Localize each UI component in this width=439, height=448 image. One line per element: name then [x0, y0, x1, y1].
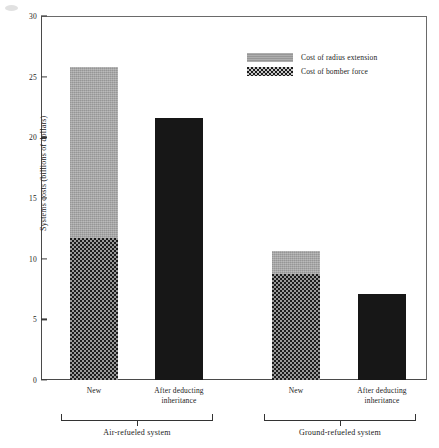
- group-bracket-tick: [137, 421, 138, 426]
- legend-item-bomber-force: Cost of bomber force: [247, 66, 377, 76]
- group-bracket: [264, 414, 416, 421]
- y-tick-label: 10: [7, 254, 37, 263]
- group-label: Ground-refueled system: [260, 428, 420, 437]
- y-tick-mark: [41, 379, 47, 380]
- bar: [272, 251, 320, 380]
- x-axis-label: After deductinginheritance: [134, 386, 224, 405]
- y-tick-mark: [41, 319, 47, 320]
- bar: [70, 67, 118, 380]
- bar-segment-radius-extension: [70, 67, 118, 238]
- bar-segment-bomber-force: [70, 238, 118, 380]
- x-axis-label-line: inheritance: [337, 396, 427, 406]
- bar-segment-bomber-force: [155, 118, 203, 380]
- x-axis-label-line: New: [251, 386, 341, 396]
- bar-chart: 051015202530 Systems costs (billions of …: [0, 0, 439, 448]
- legend-label-bomber-force: Cost of bomber force: [301, 67, 368, 76]
- legend: Cost of radius extension Cost of bomber …: [247, 52, 377, 80]
- x-axis-label-line: After deducting: [337, 386, 427, 396]
- bar: [358, 294, 406, 380]
- legend-label-radius-extension: Cost of radius extension: [301, 53, 377, 62]
- y-tick-label: 5: [7, 315, 37, 324]
- group-bracket: [61, 414, 213, 421]
- x-axis-label: New: [251, 386, 341, 396]
- x-axis-label: New: [49, 386, 139, 396]
- y-tick-label: 20: [7, 133, 37, 142]
- x-axis-label-line: After deducting: [134, 386, 224, 396]
- y-tick-mark: [41, 15, 47, 16]
- y-tick-label: 30: [7, 12, 37, 21]
- y-tick-label: 0: [7, 376, 37, 385]
- y-tick-mark: [41, 258, 47, 259]
- scan-artifact: [5, 5, 18, 11]
- y-axis-title: Systems costs (billions of dollars): [39, 116, 48, 231]
- plot-area: 051015202530 Systems costs (billions of …: [41, 16, 427, 380]
- x-axis-label-line: inheritance: [134, 396, 224, 406]
- legend-item-radius-extension: Cost of radius extension: [247, 52, 377, 62]
- group-bracket-tick: [340, 421, 341, 426]
- group-label: Air-refueled system: [57, 428, 217, 437]
- bar: [155, 118, 203, 380]
- x-axis-label: After deductinginheritance: [337, 386, 427, 405]
- bar-segment-bomber-force: [358, 294, 406, 380]
- y-tick-label: 15: [7, 194, 37, 203]
- bar-segment-radius-extension: [272, 251, 320, 274]
- y-tick-mark: [41, 76, 47, 77]
- legend-swatch-radius-extension: [247, 53, 293, 62]
- bar-segment-bomber-force: [272, 274, 320, 380]
- x-axis-label-line: New: [49, 386, 139, 396]
- legend-swatch-bomber-force: [247, 67, 293, 76]
- y-tick-label: 25: [7, 72, 37, 81]
